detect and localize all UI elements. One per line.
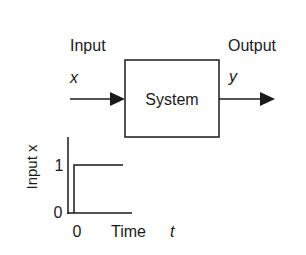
system-label: System	[145, 91, 198, 108]
output-label: Output	[228, 37, 277, 54]
input-symbol: x	[69, 69, 79, 86]
x-axis-symbol: t	[170, 223, 175, 240]
output-symbol: y	[228, 68, 238, 85]
x-axis-label: Time	[111, 223, 146, 240]
y-axis-label: Input x	[23, 144, 40, 190]
x-tick-0: 0	[73, 223, 82, 240]
y-tick-0: 0	[54, 204, 63, 221]
system-diagram: Input x System Output y 1 0 0 Time t Inp…	[0, 0, 306, 255]
input-arrowhead-icon	[110, 92, 125, 106]
y-tick-1: 1	[55, 157, 64, 174]
input-label: Input	[70, 37, 106, 54]
step-signal	[74, 165, 123, 213]
output-arrowhead-icon	[260, 92, 275, 106]
